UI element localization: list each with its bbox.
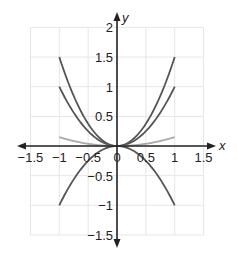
x-tick-label: −1.5 [18, 150, 44, 165]
x-axis-arrow-right-icon [207, 143, 216, 150]
y-axis-label: y [121, 10, 130, 25]
x-axis-label: x [218, 138, 226, 153]
x-tick-label: 1 [171, 150, 178, 165]
x-tick-label: −0.5 [75, 150, 101, 165]
x-tick-label: 1.5 [195, 150, 213, 165]
y-tick-label: 1.5 [95, 50, 113, 65]
y-tick-label: 0.5 [95, 109, 113, 124]
y-axis-arrow-up-icon [114, 12, 121, 21]
parabola-chart: x y −1.5−1−0.500.511.521.510.5−0.5−1−1.5 [0, 0, 237, 257]
y-tick-label: −1 [98, 198, 113, 213]
x-tick-label: −1 [52, 150, 67, 165]
y-axis-arrow-down-icon [114, 239, 121, 248]
y-tick-label: 2 [106, 20, 113, 35]
x-tick-label: 0 [113, 150, 120, 165]
x-tick-label: 0.5 [137, 150, 155, 165]
y-tick-label: −1.5 [87, 228, 113, 243]
y-tick-label: 1 [106, 80, 113, 95]
x-axis-arrow-left-icon [17, 143, 26, 150]
tick-labels: −1.5−1−0.500.511.521.510.5−0.5−1−1.5 [18, 20, 213, 243]
y-tick-label: −0.5 [87, 169, 113, 184]
axes: x y [17, 10, 226, 248]
